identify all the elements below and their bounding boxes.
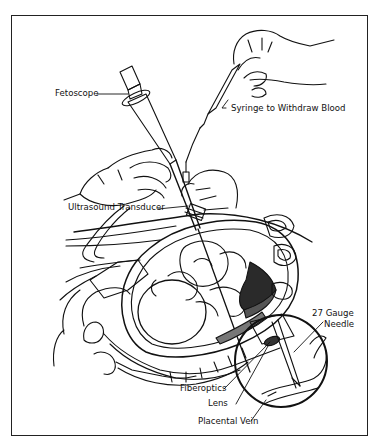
label-fetoscope: Fetoscope bbox=[55, 89, 99, 98]
caption-cutoff bbox=[90, 440, 380, 446]
left-hand-icon bbox=[64, 148, 172, 205]
label-placental-vein: Placental Vein bbox=[198, 417, 258, 426]
label-ultrasound-transducer: Ultrasound Transducer bbox=[68, 203, 165, 212]
transducer-hand-icon bbox=[182, 170, 238, 220]
label-fiberoptics: Fiberoptics bbox=[180, 384, 226, 393]
pelvic-spine bbox=[84, 322, 280, 385]
label-needle: Needle bbox=[324, 320, 354, 329]
label-lens: Lens bbox=[208, 399, 228, 408]
syringe-icon bbox=[183, 64, 240, 182]
fetus-icon bbox=[138, 241, 246, 344]
magnified-inset bbox=[235, 314, 327, 407]
label-syringe-text: Syringe to Withdraw Blood bbox=[231, 103, 346, 113]
fetoscopy-illustration bbox=[0, 0, 382, 446]
label-27-gauge: 27 Gauge bbox=[312, 309, 354, 318]
right-hand-icon bbox=[234, 30, 335, 97]
label-syringe: Syringe to Withdraw Blood bbox=[231, 104, 346, 113]
